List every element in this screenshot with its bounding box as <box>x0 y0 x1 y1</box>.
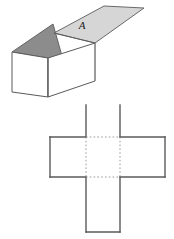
flap-a-label: A <box>78 19 86 31</box>
figure-canvas: A <box>0 0 174 239</box>
geometry-figure: A <box>0 0 174 239</box>
box-open-flap-a <box>54 6 144 43</box>
cross-net <box>50 105 165 232</box>
open-box-3d: A <box>12 6 144 97</box>
box-front-face <box>12 52 48 97</box>
net-outline <box>50 105 165 232</box>
